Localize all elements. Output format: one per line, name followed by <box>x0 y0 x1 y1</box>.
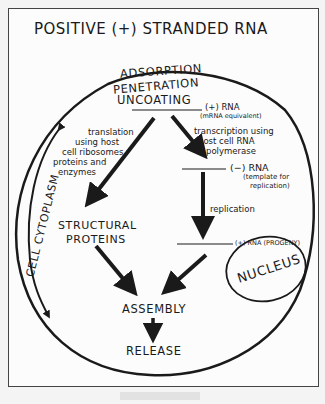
translation-line-1: translation <box>88 128 134 137</box>
translation-line-3: cell ribosomes <box>62 148 123 157</box>
diagram-title: POSITIVE (+) STRANDED RNA <box>34 22 268 37</box>
transcription-line-3: polymerase <box>206 147 256 156</box>
minus-rna-note-1: (template for <box>243 174 289 182</box>
minus-rna-label: (−) RNA <box>230 163 269 173</box>
progeny-rna-label: (+) RNA (PROGENY) <box>235 240 300 247</box>
footer-bar <box>120 392 200 400</box>
plus-rna-note: (mRNA equivalent) <box>200 113 262 120</box>
replication-label: replication <box>210 205 255 214</box>
translation-line-4: proteins and <box>53 158 106 167</box>
translation-line-2: using host <box>75 138 119 147</box>
transcription-line-1: transcription using <box>194 127 274 136</box>
stage-uncoating: UNCOATING <box>117 95 191 107</box>
translation-line-5: enzymes <box>58 168 96 177</box>
stage-assembly: ASSEMBLY <box>122 304 186 316</box>
minus-rna-note-2: replication) <box>250 183 290 191</box>
stage-structural-2: PROTEINS <box>66 234 126 245</box>
transcription-line-2: host cell RNA <box>198 137 254 146</box>
stage-release: RELEASE <box>126 346 182 358</box>
plus-rna-label: (+) RNA <box>205 103 240 112</box>
stage-structural-1: STRUCTURAL <box>58 220 137 231</box>
